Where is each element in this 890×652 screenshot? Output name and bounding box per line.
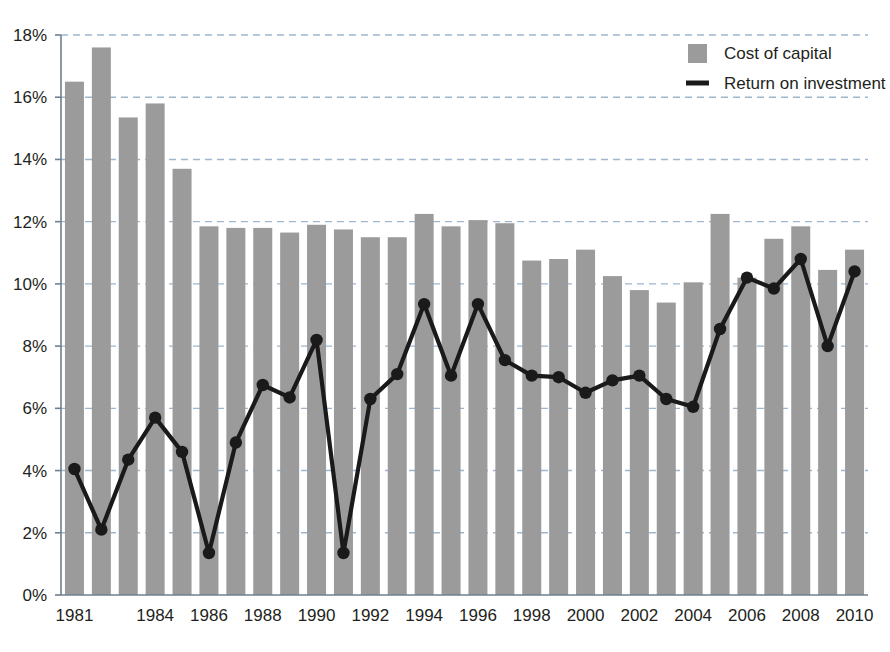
data-point-marker (364, 393, 376, 405)
x-tick-label: 2004 (674, 606, 712, 625)
x-tick-label: 1981 (56, 606, 94, 625)
bar (361, 237, 380, 595)
y-tick-label: 4% (22, 462, 47, 481)
x-tick-label: 2006 (728, 606, 766, 625)
bar (522, 261, 541, 595)
y-tick-label: 2% (22, 524, 47, 543)
x-tick-label: 1986 (190, 606, 228, 625)
data-point-marker (391, 368, 403, 380)
legend-swatch-cost-of-capital (688, 44, 707, 63)
bar (253, 228, 272, 595)
data-point-marker (552, 371, 564, 383)
data-point-marker (714, 323, 726, 335)
bar (630, 290, 649, 595)
bar (388, 237, 407, 595)
data-point-marker (445, 369, 457, 381)
data-point-marker (579, 387, 591, 399)
chart-container: 0%2%4%6%8%10%12%14%16%18% 19811984198619… (0, 0, 890, 652)
x-tick-label: 2002 (620, 606, 658, 625)
data-point-marker (848, 265, 860, 277)
bar (684, 282, 703, 595)
legend-label: Cost of capital (724, 44, 832, 63)
bar (65, 82, 84, 595)
data-point-marker (203, 547, 215, 559)
data-point-marker (122, 453, 134, 465)
bar (415, 214, 434, 595)
bar (280, 233, 299, 595)
y-tick-label: 10% (13, 275, 47, 294)
y-tick-label: 8% (22, 337, 47, 356)
bar (845, 250, 864, 595)
bar (549, 259, 568, 595)
bar (603, 276, 622, 595)
data-point-marker (68, 463, 80, 475)
bar (737, 278, 756, 595)
x-tick-label: 1988 (244, 606, 282, 625)
x-tick-label: 1992 (351, 606, 389, 625)
bar (468, 220, 487, 595)
data-point-marker (149, 411, 161, 423)
y-tick-label: 14% (13, 150, 47, 169)
data-point-marker (499, 354, 511, 366)
data-point-marker (95, 523, 107, 535)
x-tick-label: 1990 (298, 606, 336, 625)
bar (146, 103, 165, 595)
bar (119, 117, 138, 595)
data-point-marker (310, 334, 322, 346)
data-point-marker (741, 271, 753, 283)
y-tick-label: 0% (22, 586, 47, 605)
data-point-marker (633, 369, 645, 381)
cost-of-capital-vs-roi-chart: 0%2%4%6%8%10%12%14%16%18% 19811984198619… (0, 0, 890, 652)
y-tick-label: 12% (13, 213, 47, 232)
data-point-marker (660, 393, 672, 405)
bar (495, 223, 514, 595)
x-tick-label: 2008 (782, 606, 820, 625)
x-tick-label: 1996 (459, 606, 497, 625)
data-point-marker (176, 446, 188, 458)
bar (226, 228, 245, 595)
bar (442, 226, 461, 595)
legend-label: Return on investment (724, 74, 886, 93)
y-tick-label: 18% (13, 26, 47, 45)
data-point-marker (283, 391, 295, 403)
bar (711, 214, 730, 595)
bar (657, 303, 676, 595)
x-tick-label: 2010 (836, 606, 874, 625)
data-point-marker (526, 369, 538, 381)
bar (199, 226, 218, 595)
data-point-marker (821, 340, 833, 352)
data-point-marker (795, 253, 807, 265)
bar (173, 169, 192, 595)
bar (576, 250, 595, 595)
y-tick-label: 16% (13, 88, 47, 107)
data-point-marker (257, 379, 269, 391)
x-tick-label: 2000 (567, 606, 605, 625)
data-point-marker (418, 298, 430, 310)
data-point-marker (768, 282, 780, 294)
data-point-marker (687, 401, 699, 413)
x-tick-label: 1994 (405, 606, 443, 625)
bar (307, 225, 326, 595)
y-tick-label: 6% (22, 399, 47, 418)
x-tick-label: 1984 (136, 606, 174, 625)
data-point-marker (230, 436, 242, 448)
data-point-marker (337, 547, 349, 559)
data-point-marker (472, 298, 484, 310)
x-tick-label: 1998 (513, 606, 551, 625)
data-point-marker (606, 374, 618, 386)
